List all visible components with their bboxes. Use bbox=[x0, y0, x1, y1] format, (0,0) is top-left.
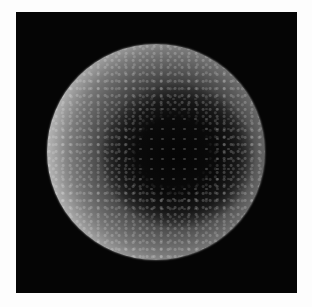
spherical-particle bbox=[47, 44, 265, 260]
micrograph-frame bbox=[16, 12, 297, 293]
surface-pores bbox=[47, 44, 265, 260]
